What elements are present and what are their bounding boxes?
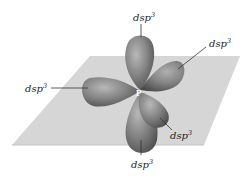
label-equatorial-left: dsp3	[25, 82, 47, 94]
label-axial-top: dsp3	[133, 11, 155, 23]
label-equatorial-right: dsp3	[209, 37, 231, 49]
label-axial-bottom: dsp3	[131, 158, 153, 170]
central-atom-label: P	[136, 88, 142, 98]
dsp3-orbital-diagram: P dsp3 dsp3 dsp3 dsp3 dsp3	[0, 0, 249, 183]
